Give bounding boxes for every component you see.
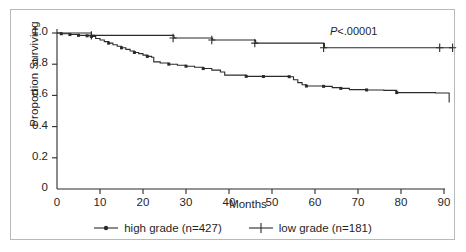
- x-tick-label: 50: [257, 196, 287, 208]
- y-tick-label: 1.0: [18, 25, 48, 37]
- censor-mark-dot: [133, 51, 136, 54]
- censor-mark-dot: [262, 75, 265, 78]
- p-value-number: <.00001: [337, 25, 377, 37]
- chart-legend: high grade (n=427) low grade (n=181): [10, 222, 455, 234]
- censor-mark-dot: [146, 55, 149, 58]
- y-tick-label: 0.2: [18, 150, 48, 162]
- x-axis-title: Months: [188, 198, 308, 210]
- x-tick-label: 10: [85, 196, 115, 208]
- censor-mark-plus: [436, 44, 443, 52]
- censor-mark-dot: [167, 63, 170, 66]
- legend-label-low-grade: low grade (n=181): [279, 222, 372, 234]
- chart-plot-area: [0, 0, 466, 252]
- axis-lines: [57, 29, 445, 189]
- x-tick-label: 30: [171, 196, 201, 208]
- censor-mark-dot: [107, 42, 110, 45]
- censor-mark-dot: [77, 34, 80, 37]
- censor-mark-plus: [88, 31, 95, 39]
- censor-mark-dot: [305, 85, 308, 88]
- censor-mark-plus: [320, 44, 327, 52]
- y-tick-label: 0.8: [18, 56, 48, 68]
- censor-mark-dot: [202, 67, 205, 70]
- censor-mark-dot: [395, 91, 398, 94]
- x-tick-label: 40: [214, 196, 244, 208]
- legend-label-high-grade: high grade (n=427): [124, 222, 222, 234]
- censor-mark-dot: [120, 46, 123, 49]
- p-value-annotation: P<.00001: [330, 25, 377, 37]
- censor-mark-dot: [185, 65, 188, 68]
- series-low-grade: [57, 31, 456, 52]
- censor-mark-dot: [288, 75, 291, 78]
- censor-mark-dot: [245, 75, 248, 78]
- x-tick-label: 80: [386, 196, 416, 208]
- censor-mark-dot: [365, 88, 368, 91]
- x-tick-label: 20: [128, 196, 158, 208]
- legend-item-low-grade: low grade (n=181): [248, 222, 372, 234]
- y-tick-label: 0.6: [18, 87, 48, 99]
- x-axis-ticks: [100, 189, 444, 194]
- x-tick-label: 70: [343, 196, 373, 208]
- censor-mark-dot: [339, 87, 342, 90]
- legend-marker-dot-icon: [93, 222, 119, 234]
- y-tick-label: 0.4: [18, 119, 48, 131]
- x-tick-label: 60: [300, 196, 330, 208]
- censor-mark-plus: [208, 36, 215, 44]
- x-tick-label: 90: [429, 196, 459, 208]
- censor-mark-plus: [449, 44, 456, 52]
- censor-mark-dot: [322, 85, 325, 88]
- y-tick-label: 0: [18, 181, 48, 193]
- x-tick-label: 0: [42, 196, 72, 208]
- y-axis-ticks: [52, 33, 57, 158]
- legend-item-high-grade: high grade (n=427): [93, 222, 222, 234]
- figure-container: Proportion Surviving Months P<.00001 hig…: [0, 0, 466, 252]
- legend-marker-plus-icon: [248, 222, 274, 234]
